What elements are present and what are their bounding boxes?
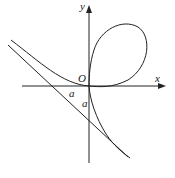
- diagram-svg: [0, 0, 175, 178]
- folium-diagram: y x O a a: [0, 0, 175, 178]
- intercept-label-vertical: a: [82, 98, 88, 109]
- y-axis-arrow-icon: [86, 5, 92, 13]
- intercept-label-horizontal: a: [69, 88, 75, 99]
- origin-label: O: [78, 73, 86, 84]
- x-axis-label: x: [155, 73, 160, 84]
- y-axis-label: y: [80, 1, 85, 12]
- folium-curve: [11, 24, 147, 158]
